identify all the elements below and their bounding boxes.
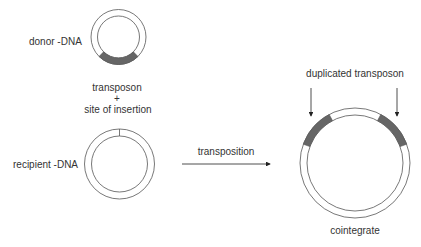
recipient-plasmid [85, 129, 155, 199]
cointegrate-label: cointegrate [330, 225, 379, 237]
recipient-dna-label: recipient -DNA [13, 159, 78, 171]
transposition-label: transposition [198, 146, 255, 158]
donor-dna-label: donor -DNA [29, 36, 82, 48]
donor-plasmid [91, 10, 146, 65]
donor-transposon-segment [99, 52, 138, 65]
site-of-insertion-label: site of insertion [84, 104, 151, 116]
duplicated-transposon-label: duplicated transposon [306, 68, 404, 80]
cointegrate-transposon-left [303, 114, 332, 146]
cointegrate-plasmid [300, 108, 410, 218]
cointegrate-transposon-right [378, 114, 407, 146]
